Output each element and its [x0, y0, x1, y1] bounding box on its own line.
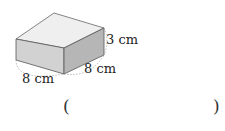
answer-blank[interactable]: [75, 98, 210, 118]
answer-open-paren: (: [63, 98, 70, 115]
depth-label: 8 cm: [84, 62, 116, 75]
answer-close-paren: ): [213, 98, 220, 115]
height-label: 3 cm: [106, 33, 138, 46]
width-label: 8 cm: [22, 72, 54, 85]
